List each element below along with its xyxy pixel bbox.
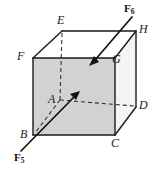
vertex-label-b: B [20, 128, 27, 140]
vertex-label-d: D [139, 99, 148, 111]
force-label-f6-subscript: 6 [131, 7, 135, 16]
force-label-f5-base: F [14, 151, 21, 163]
cube-force-diagram: A B C D E F G H F5 F6 [0, 0, 158, 175]
vertex-label-a: A [48, 93, 55, 105]
vertex-label-g: G [112, 53, 121, 65]
force-label-f6-base: F [124, 2, 131, 14]
vertex-label-e: E [57, 14, 64, 26]
vertex-label-h: H [139, 23, 148, 35]
force-label-f5-subscript: 5 [21, 156, 25, 165]
cube-figure-svg [0, 0, 158, 175]
vertex-label-f: F [17, 50, 24, 62]
force-label-f6: F6 [124, 3, 134, 14]
force-label-f5: F5 [14, 152, 24, 163]
vertex-label-c: C [111, 137, 119, 149]
